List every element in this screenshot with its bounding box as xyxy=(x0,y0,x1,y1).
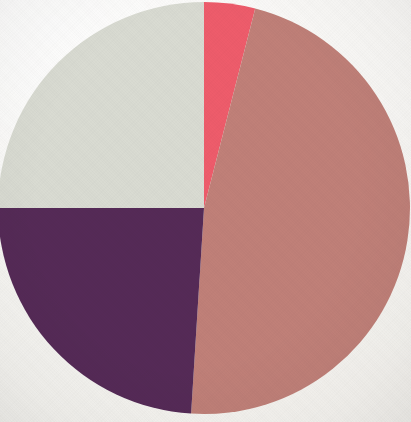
pie-slice-light-grey xyxy=(0,2,204,208)
pie-slice-group xyxy=(0,2,410,414)
pie-chart-canvas xyxy=(0,0,411,422)
pie-slice-dark-purple xyxy=(0,208,204,414)
pie-chart-figure xyxy=(0,0,411,422)
